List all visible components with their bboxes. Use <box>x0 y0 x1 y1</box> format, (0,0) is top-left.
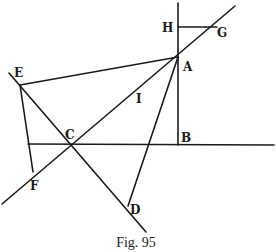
segment-EA <box>20 57 178 85</box>
horizontal-line-CB <box>28 144 274 145</box>
label-A: A <box>182 60 193 74</box>
label-H: H <box>162 21 173 35</box>
figure-caption: Fig. 95 <box>116 235 156 250</box>
label-F: F <box>30 179 39 193</box>
segment-AD <box>128 57 178 206</box>
label-E: E <box>14 66 23 80</box>
geometric-figure: H G A E I C B F D Fig. 95 <box>0 0 276 252</box>
label-I: I <box>136 92 142 106</box>
label-G: G <box>217 26 227 40</box>
label-C: C <box>65 128 75 142</box>
label-B: B <box>181 131 191 145</box>
label-D: D <box>130 203 140 217</box>
